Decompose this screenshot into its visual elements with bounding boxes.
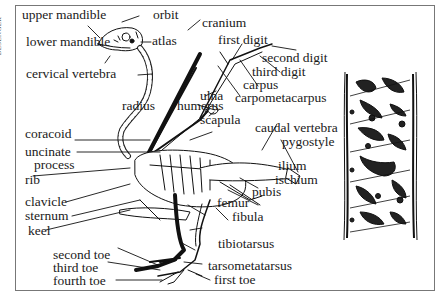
label-keel: keel <box>28 224 51 238</box>
label-fourth-toe: fourth toe <box>53 274 106 288</box>
label-cranium: cranium <box>202 16 246 30</box>
label-pubis: pubis <box>252 185 281 199</box>
label-upper-mandible: upper mandible <box>22 8 106 22</box>
label-tarsometatarsus: tarsometatarsus <box>208 259 292 273</box>
label-carpometacarpus: carpometacarpus <box>235 91 326 105</box>
label-ilium: ilium <box>278 159 307 173</box>
label-pygostyle: pygostyle <box>282 135 335 149</box>
label-cervical-vertebra: cervical vertebra <box>26 67 116 81</box>
label-scapula: scapula <box>200 113 240 127</box>
label-lower-mandible: lower mandible <box>26 35 110 49</box>
label-sternum: sternum <box>25 209 69 223</box>
label-radius: radius <box>122 99 155 113</box>
label-atlas: atlas <box>152 34 177 48</box>
label-fibula: fibula <box>232 210 264 224</box>
label-femur: femur <box>217 196 249 210</box>
label-process: process <box>34 158 75 172</box>
bone-cross-section-inset <box>344 72 417 240</box>
label-orbit: orbit <box>153 8 179 22</box>
label-tibiotarsus: tibiotarsus <box>218 237 274 251</box>
label-second-digit: second digit <box>262 51 328 65</box>
label-first-digit: first digit <box>218 33 268 47</box>
label-caudal-vertebra: caudal vertebra <box>255 121 338 135</box>
label-clavicle: clavicle <box>25 195 67 209</box>
label-coracoid: coracoid <box>25 127 71 141</box>
label-humerus: humerus <box>177 99 224 113</box>
label-first-toe: first toe <box>214 273 256 287</box>
label-rib: rib <box>25 173 40 187</box>
label-ischium: ischium <box>275 173 318 187</box>
